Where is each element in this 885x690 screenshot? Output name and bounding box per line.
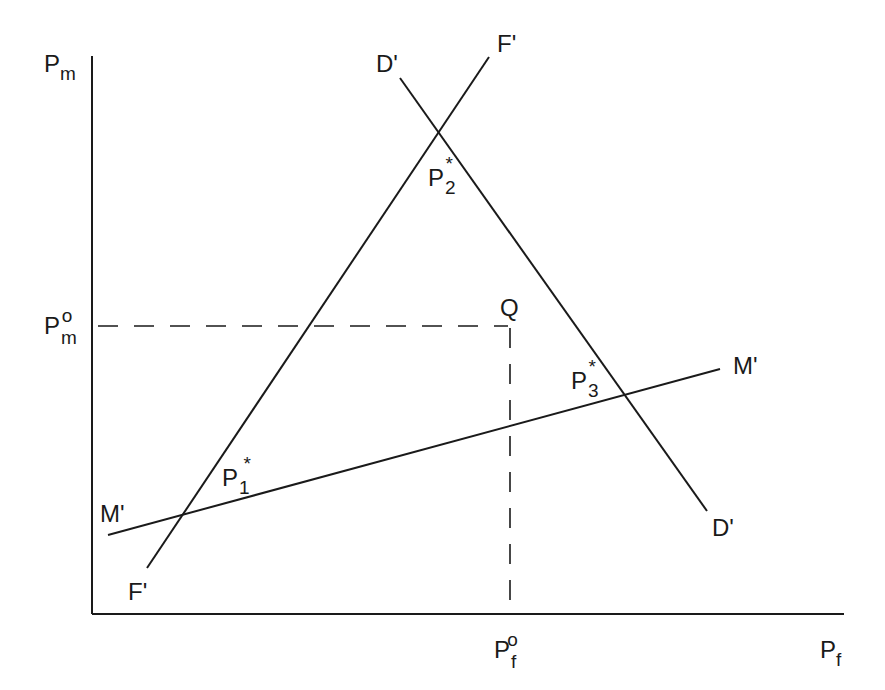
m-left-label: M': [100, 500, 125, 527]
price-diagram: Pm Pf Pmo Pfo Q F' F' D' D' M' M' P1* P2…: [0, 0, 885, 690]
d-top-label: D': [376, 50, 398, 77]
point-q-label: Q: [500, 294, 519, 321]
d-curve: [400, 78, 707, 511]
y-axis-label: Pm: [44, 50, 76, 84]
x-axis-label: Pf: [820, 636, 842, 670]
p3-star-label: P3*: [571, 356, 599, 401]
m-curve: [108, 369, 720, 535]
pm0-label: Pmo: [44, 305, 77, 348]
f-bottom-label: F': [128, 578, 147, 605]
m-right-label: M': [733, 352, 758, 379]
p1-star-label: P1*: [222, 453, 252, 498]
f-curve: [147, 57, 489, 568]
pf0-label: Pfo: [494, 629, 518, 672]
f-top-label: F': [497, 30, 516, 57]
d-bottom-label: D': [712, 514, 734, 541]
p2-star-label: P2*: [428, 153, 456, 198]
